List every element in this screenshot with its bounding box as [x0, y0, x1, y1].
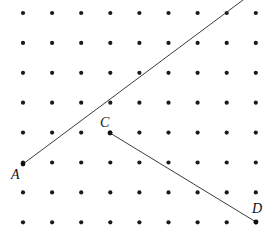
grid-dot — [21, 71, 25, 75]
grid-dot — [21, 101, 25, 105]
vertex-point-d — [254, 220, 259, 225]
grid-dot — [166, 190, 170, 194]
grid-dot — [225, 190, 229, 194]
grid-dot — [137, 131, 141, 135]
grid-dot — [254, 101, 258, 105]
grid-dot — [108, 220, 112, 224]
grid-dot — [137, 160, 141, 164]
vertex-point-a — [21, 162, 26, 167]
grid-dot — [137, 101, 141, 105]
grid-dot — [254, 131, 258, 135]
grid-dot — [196, 131, 200, 135]
grid-dot — [50, 131, 54, 135]
grid-dot — [166, 220, 170, 224]
grid-dot — [196, 71, 200, 75]
point-label-d: D — [252, 202, 262, 216]
grid-dot — [196, 11, 200, 15]
point-label-a: A — [11, 168, 20, 182]
grid-dot — [137, 41, 141, 45]
figure-lines — [23, 0, 256, 222]
grid-dot — [196, 160, 200, 164]
point-label-c: C — [100, 116, 109, 130]
grid-dot — [50, 71, 54, 75]
grid-dot — [254, 160, 258, 164]
grid-dot — [166, 11, 170, 15]
grid-dot — [21, 131, 25, 135]
grid-dot — [225, 71, 229, 75]
grid-dot — [137, 220, 141, 224]
grid-dot — [50, 190, 54, 194]
grid-dot — [79, 131, 83, 135]
ray-A-through-grid — [23, 0, 243, 164]
grid-dot — [79, 160, 83, 164]
grid-dot — [50, 41, 54, 45]
grid-dot — [254, 11, 258, 15]
grid-dot — [254, 41, 258, 45]
grid-dot — [166, 101, 170, 105]
grid-dot — [254, 71, 258, 75]
grid-dot — [225, 131, 229, 135]
vertex-markers — [21, 131, 259, 225]
geometry-figure: ACD — [0, 0, 279, 239]
grid-dot — [79, 11, 83, 15]
grid-dot — [196, 41, 200, 45]
grid-dot — [108, 160, 112, 164]
grid-dot — [108, 71, 112, 75]
grid-dot — [108, 41, 112, 45]
segment-C-D — [110, 133, 256, 222]
vertex-point-c — [108, 131, 113, 136]
grid-dot — [196, 190, 200, 194]
dot-grid — [21, 11, 258, 225]
grid-dot — [254, 190, 258, 194]
grid-dot — [196, 101, 200, 105]
grid-dot — [137, 71, 141, 75]
grid-dot — [50, 220, 54, 224]
grid-dot — [50, 101, 54, 105]
grid-dot — [79, 41, 83, 45]
grid-dot — [166, 131, 170, 135]
grid-dot — [79, 71, 83, 75]
grid-dot — [166, 71, 170, 75]
grid-dot — [108, 101, 112, 105]
grid-dot — [21, 11, 25, 15]
grid-dot — [108, 190, 112, 194]
grid-dot — [137, 11, 141, 15]
grid-dot — [21, 41, 25, 45]
grid-dot — [79, 190, 83, 194]
grid-dot — [166, 160, 170, 164]
grid-dot — [21, 220, 25, 224]
grid-dot — [79, 220, 83, 224]
grid-dot — [79, 101, 83, 105]
grid-dot — [196, 220, 200, 224]
grid-dot — [225, 101, 229, 105]
figure-canvas — [0, 0, 279, 239]
grid-dot — [108, 11, 112, 15]
grid-dot — [21, 190, 25, 194]
grid-dot — [50, 160, 54, 164]
grid-dot — [225, 41, 229, 45]
grid-dot — [50, 11, 54, 15]
grid-dot — [225, 220, 229, 224]
grid-dot — [166, 41, 170, 45]
grid-dot — [225, 160, 229, 164]
grid-dot — [137, 190, 141, 194]
